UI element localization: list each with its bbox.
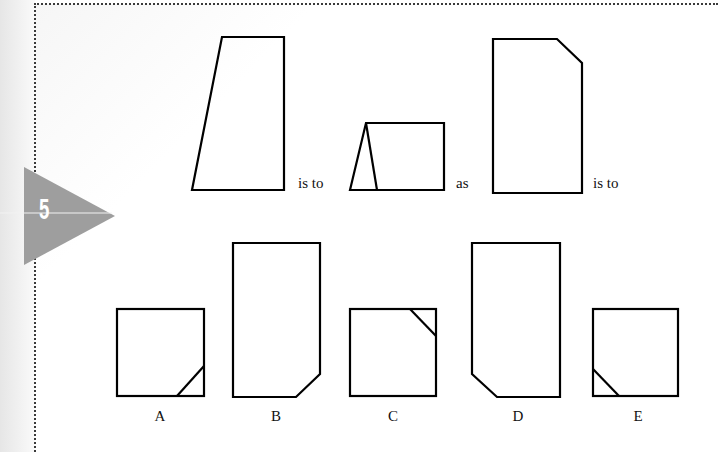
option-a-figure[interactable]: [117, 309, 204, 396]
option-a-corner-line: [177, 366, 204, 396]
option-label-c[interactable]: C: [388, 409, 398, 424]
question-badge: [0, 167, 115, 265]
stem-figure-cut-corner-rectangle: [493, 39, 582, 193]
option-c-corner-line: [410, 309, 436, 336]
question-number: 5: [39, 194, 49, 224]
badge-triangle-icon: [24, 167, 115, 265]
option-e-corner-line: [593, 369, 619, 396]
option-label-a[interactable]: A: [155, 409, 166, 424]
option-label-b[interactable]: B: [271, 409, 281, 424]
connector-as: as: [456, 176, 469, 191]
connector-is-to-1: is to: [298, 176, 323, 191]
option-b-figure[interactable]: [233, 243, 320, 397]
option-d-figure[interactable]: [472, 243, 560, 397]
connector-is-to-2: is to: [593, 176, 618, 191]
stem-figure-rectangle-triangle: [350, 123, 444, 190]
figures-canvas: [0, 0, 718, 452]
option-label-e[interactable]: E: [633, 409, 642, 424]
option-label-d[interactable]: D: [513, 409, 524, 424]
stem-figure-trapezoid: [192, 37, 284, 190]
stem-figure-triangle-edge: [366, 123, 377, 190]
